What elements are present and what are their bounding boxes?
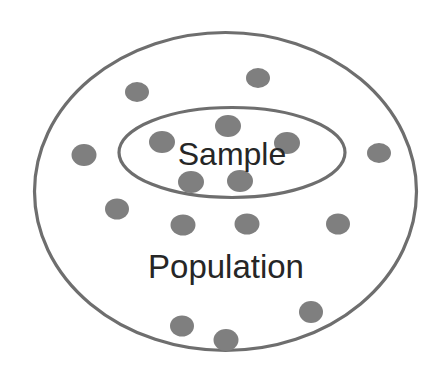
data-point-dot (125, 82, 149, 102)
data-point-dot (367, 143, 391, 163)
data-point-dot (171, 215, 196, 236)
data-point-dot (149, 131, 175, 153)
data-point-dot (246, 68, 270, 88)
data-point-dot (326, 214, 350, 235)
data-point-dot (170, 316, 194, 337)
data-point-dot (299, 301, 323, 323)
data-point-dot (227, 170, 253, 192)
data-point-dot (235, 214, 260, 235)
data-point-dot (72, 144, 97, 166)
population-sample-diagram: Sample Population (0, 0, 443, 374)
sample-label: Sample (178, 136, 287, 172)
data-point-dot (105, 199, 129, 220)
data-point-dot (215, 115, 241, 137)
population-label: Population (148, 248, 304, 285)
data-point-dot (214, 329, 239, 351)
diagram-canvas: Sample Population (0, 0, 443, 374)
data-point-group (72, 68, 392, 351)
population-ellipse[interactable] (35, 33, 417, 351)
data-point-dot (178, 171, 204, 193)
